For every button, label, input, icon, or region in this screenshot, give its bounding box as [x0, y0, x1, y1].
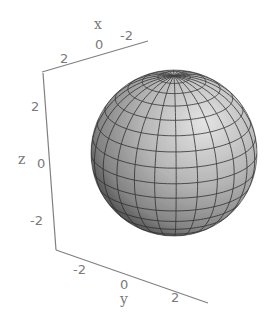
- x-tick-label: -2: [120, 29, 133, 42]
- z-tick-label: 0: [37, 157, 45, 170]
- x-tick-label: 0: [95, 38, 103, 51]
- z-tick-label: -2: [30, 214, 43, 227]
- z-tick-label: 2: [31, 100, 39, 113]
- x-tick-label: 2: [60, 52, 68, 65]
- sphere-surface: [91, 70, 257, 236]
- y-tick-label: 2: [171, 291, 179, 304]
- x-axis-label: x: [94, 17, 102, 31]
- z-axis-label: z: [18, 152, 25, 166]
- y-tick-label: 0: [120, 278, 128, 291]
- y-axis-label: y: [120, 292, 128, 306]
- y-tick-label: -2: [73, 263, 86, 276]
